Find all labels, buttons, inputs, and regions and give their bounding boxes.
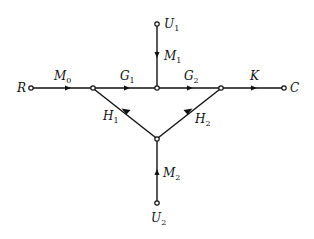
label-m0: M0 <box>53 69 71 85</box>
label-h1: H1 <box>102 109 119 125</box>
label-g2: G2 <box>184 69 199 85</box>
node-r <box>29 86 33 90</box>
node-n3 <box>219 86 223 90</box>
label-u2: U2 <box>151 211 166 227</box>
label-h2: H2 <box>194 112 211 128</box>
label-u1: U1 <box>164 17 179 33</box>
arrow-m0-icon <box>65 86 71 91</box>
arrow-k-icon <box>251 86 257 91</box>
label-r: R <box>16 81 26 95</box>
signal-flow-graph: R C U1 M1 M0 G1 G2 K H1 H2 M2 U2 <box>0 0 314 239</box>
arrow-g1-icon <box>124 86 130 91</box>
label-k: K <box>249 69 260 83</box>
node-n4 <box>155 137 159 141</box>
label-g1: G1 <box>120 69 135 85</box>
arrow-m1-icon <box>155 52 160 58</box>
node-u2 <box>155 201 159 205</box>
node-c <box>282 86 286 90</box>
label-m2: M2 <box>162 166 180 182</box>
arrow-m2-icon <box>155 169 160 175</box>
edge-n4-to-n3 <box>159 90 220 138</box>
label-m1: M1 <box>163 49 181 65</box>
arrow-g2-icon <box>187 86 193 91</box>
node-n2 <box>155 86 159 90</box>
node-u1 <box>155 22 159 26</box>
label-c: C <box>290 81 299 95</box>
node-n1 <box>91 86 95 90</box>
